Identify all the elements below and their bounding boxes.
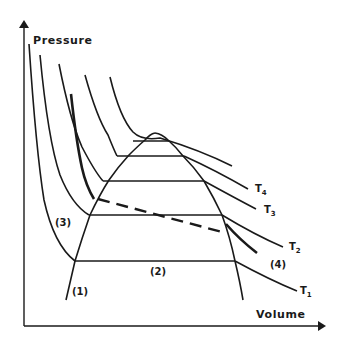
dome-right-leg (155, 133, 243, 300)
isotherm-t4-label: T4 (255, 183, 267, 197)
isotherms (29, 44, 297, 291)
region-label-2: (2) (150, 266, 166, 277)
region-label-1: (1) (72, 286, 88, 297)
region-label-4: (4) (270, 259, 286, 270)
isotherm-t1-label: T1 (300, 285, 312, 299)
supercooled-vapor-curve-4 (226, 224, 257, 253)
isotherm-t4-right (184, 156, 248, 189)
tie-lines (75, 141, 235, 261)
isotherm-t1-left (29, 44, 75, 261)
x-axis-label: Volume (256, 308, 306, 321)
pv-diagram-svg: Pressure Volume T4 T3 T2 T1 (1) (2) (3) … (0, 0, 346, 343)
region-label-3: (3) (55, 217, 71, 228)
isotherm-t2-label: T2 (289, 241, 301, 255)
isotherm-t2-left (40, 55, 89, 215)
axes (24, 24, 322, 326)
isotherm-t3-label: T3 (264, 204, 276, 218)
pv-diagram: Pressure Volume T4 T3 T2 T1 (1) (2) (3) … (0, 0, 346, 343)
isotherm-t1-right (235, 261, 297, 291)
y-axis-label: Pressure (33, 34, 93, 47)
isotherm-supercritical (110, 77, 232, 166)
